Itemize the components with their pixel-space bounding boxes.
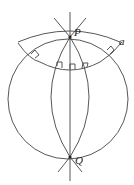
sphere-diagram: P a Q [0, 0, 134, 185]
label-a: a [119, 36, 125, 47]
right-angle-marker [70, 64, 75, 69]
diagram-svg [0, 0, 134, 185]
meridian-left [51, 37, 70, 157]
right-angle-marker [107, 46, 114, 54]
meridian-left-ext-top [54, 18, 70, 37]
pole-q-dot [68, 155, 71, 158]
label-p: P [74, 27, 81, 38]
sphere-outline [8, 39, 128, 159]
meridian-right [70, 37, 89, 157]
right-angle-marker [57, 62, 62, 68]
label-q: Q [75, 155, 83, 166]
pole-p-dot [68, 35, 71, 38]
